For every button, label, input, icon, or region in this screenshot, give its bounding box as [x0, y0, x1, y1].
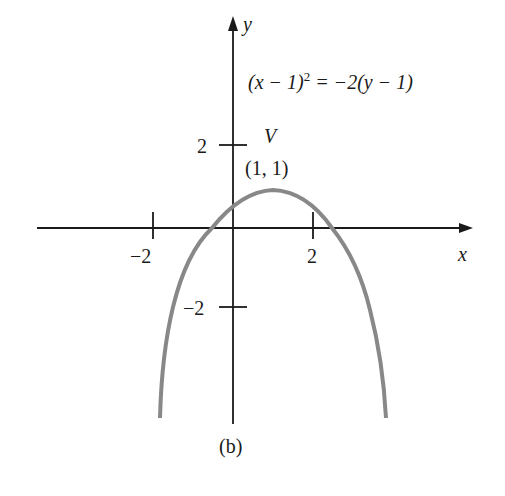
- vertex-label: V: [264, 126, 276, 146]
- y-tick-label-2: 2: [197, 136, 207, 156]
- equation-label: (x − 1)2 = −2(y − 1): [248, 70, 413, 92]
- x-tick-label-2: 2: [307, 246, 317, 266]
- y-axis-label: y: [243, 14, 252, 34]
- y-tick-label-neg2: −2: [183, 298, 204, 318]
- vertex-coords-label: (1, 1): [245, 158, 288, 178]
- x-axis-label: x: [458, 244, 467, 264]
- figure-caption: (b): [219, 436, 242, 456]
- x-axis-arrow-icon: [459, 223, 473, 233]
- y-axis-arrow-icon: [228, 16, 238, 31]
- x-tick-label-neg2: −2: [130, 246, 151, 266]
- equation-rhs: = −2(y − 1): [310, 71, 413, 93]
- equation-lhs: (x − 1): [248, 71, 304, 93]
